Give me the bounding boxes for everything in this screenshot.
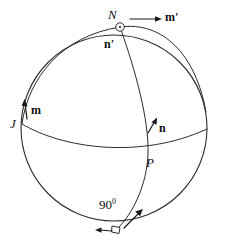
equator-arc [22,124,207,148]
label-n-prime: n′ [104,38,114,50]
label-n-vector: n [159,122,166,134]
label-angle-unit: 0 [112,197,116,206]
label-p-point: P [146,156,154,169]
label-angle-value: 90 [99,197,112,212]
bottom-left-arrowhead-icon [95,227,102,232]
label-m-prime-mark: ′ [175,10,178,24]
sphere-outline [21,35,207,221]
north-pole-dot-icon [119,26,121,28]
label-n-prime-mark: ′ [111,37,114,51]
meridian-arc [117,27,148,229]
label-north-pole: N [108,8,117,21]
label-angle: 900 [99,198,116,211]
n-arrowhead-icon [152,118,158,125]
label-j-point: J [10,117,16,130]
right-angle-marker-icon [112,226,121,234]
label-m-vector: m [31,104,41,116]
m-prime-arrowhead-icon [155,16,162,22]
label-m-prime: m′ [165,11,178,23]
label-m-prime-base: m [165,10,175,24]
label-n-prime-base: n [104,37,111,51]
figure-root: N m′ n′ m J n P 900 [0,0,227,242]
